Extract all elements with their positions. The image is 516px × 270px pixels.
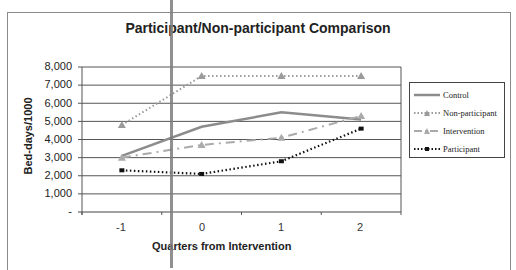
- series-line-control: [122, 112, 361, 156]
- legend-line-solid-icon: [414, 91, 440, 99]
- legend-line-dotted-icon: [414, 145, 440, 153]
- legend-item-non-participant: Non-participant: [414, 108, 497, 118]
- chart-legend: Control Non-participant Intervention Par…: [409, 82, 505, 158]
- legend-item-intervention: Intervention: [414, 126, 485, 136]
- series-line-intervention: [122, 116, 361, 158]
- triangle-marker-icon: [277, 134, 285, 141]
- square-marker-icon: [359, 127, 364, 131]
- square-marker-icon: [119, 168, 124, 172]
- legend-item-participant: Participant: [414, 144, 480, 154]
- legend-line-dotted-triangle-icon: [414, 109, 440, 117]
- scan-artifact-bar: [170, 0, 173, 268]
- square-marker-icon: [199, 172, 204, 176]
- triangle-marker-icon: [118, 121, 126, 128]
- series-line-non-participant: [122, 76, 361, 125]
- triangle-marker-icon: [357, 112, 365, 119]
- legend-line-dashdot-triangle-icon: [414, 127, 440, 135]
- legend-item-control: Control: [414, 90, 469, 100]
- triangle-marker-icon: [357, 72, 365, 79]
- square-marker-icon: [279, 159, 284, 163]
